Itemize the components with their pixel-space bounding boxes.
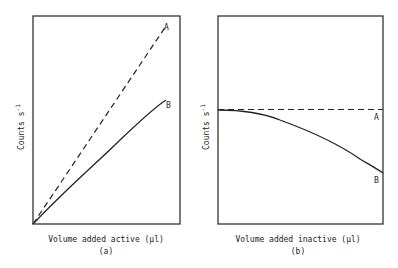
panel-a-curve-b-label: B (166, 101, 171, 110)
figure: A B Counts s-1 Volume added active (µl) … (0, 0, 398, 268)
panel-b-caption: (b) (291, 247, 305, 256)
panel-a-frame (33, 16, 180, 224)
panel-a-curve-a-label: A (164, 23, 169, 32)
panel-b-frame (218, 16, 383, 224)
panel-a: A B Counts s-1 Volume added active (µl) … (14, 16, 180, 256)
panel-a-x-axis-label: Volume added active (µl) (48, 235, 164, 244)
panel-b-y-axis-label: Counts s-1 (199, 104, 211, 150)
panel-b-curve-b-label: B (374, 176, 379, 185)
panel-a-curve-a (33, 26, 166, 224)
panel-b-curve-a-label: A (374, 113, 379, 122)
panel-a-y-axis-label: Counts s-1 (14, 104, 26, 150)
panel-b-x-axis-label: Volume added inactive (µl) (235, 235, 360, 244)
panel-b-curve-b (218, 110, 383, 173)
panel-a-curve-b (33, 100, 166, 224)
panel-a-caption: (a) (99, 247, 113, 256)
panel-b: A B Counts s-1 Volume added inactive (µl… (199, 16, 383, 256)
